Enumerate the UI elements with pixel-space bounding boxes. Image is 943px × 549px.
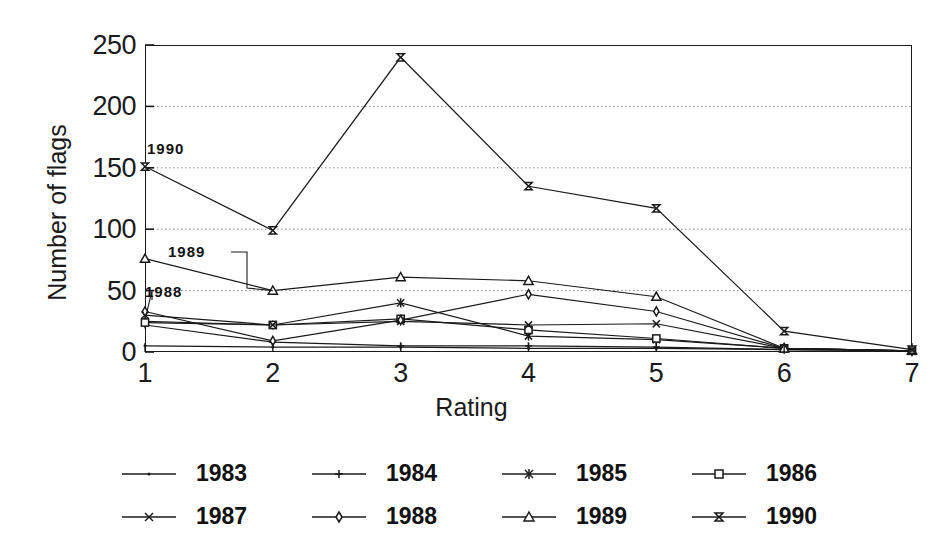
legend-item-1987[interactable]: 1987 — [118, 503, 308, 530]
marker-dot — [148, 472, 151, 475]
annotation-leader-lines — [147, 252, 273, 311]
line-chart: 050100150200250 1234567 Number of flags … — [0, 0, 943, 440]
marker-bowtie — [141, 163, 148, 170]
marker-bowtie — [397, 54, 404, 61]
legend-item-1984[interactable]: 1984 — [308, 460, 498, 487]
legend-label: 1987 — [196, 503, 247, 530]
chart-legend: 19831984198519861987198819891990 — [118, 452, 878, 538]
marker-diamond — [336, 512, 342, 522]
marker-square — [715, 470, 723, 478]
legend-label: 1985 — [576, 460, 627, 487]
y-tick-label: 100 — [92, 214, 136, 245]
marker-diamond — [654, 307, 659, 316]
marker-square — [653, 335, 660, 342]
x-tick-label: 5 — [649, 358, 664, 389]
legend-marker-diamond-icon — [308, 506, 370, 528]
legend-item-1985[interactable]: 1985 — [498, 460, 688, 487]
x-axis-title: Rating — [0, 393, 943, 422]
legend-label: 1988 — [386, 503, 437, 530]
x-tick-label: 3 — [393, 358, 408, 389]
legend-label: 1989 — [576, 503, 627, 530]
marker-square — [141, 319, 148, 326]
x-tick-label: 1 — [137, 358, 152, 389]
annotation-1989: 1989 — [168, 243, 205, 260]
y-tick-label: 200 — [92, 91, 136, 122]
y-tick-label: 250 — [92, 30, 136, 61]
annotation-1988: 1988 — [145, 283, 182, 300]
series-line — [145, 57, 912, 349]
legend-item-1983[interactable]: 1983 — [118, 460, 308, 487]
marker-triangle — [140, 254, 149, 262]
legend-item-1988[interactable]: 1988 — [308, 503, 498, 530]
legend-marker-bowtie-icon — [688, 506, 750, 528]
legend-marker-plus-icon — [308, 463, 370, 485]
legend-label: 1990 — [766, 503, 817, 530]
legend-item-1986[interactable]: 1986 — [688, 460, 878, 487]
marker-bowtie — [269, 227, 276, 234]
series-1990 — [141, 54, 915, 353]
annotation-1990: 1990 — [147, 140, 184, 157]
legend-label: 1984 — [386, 460, 437, 487]
x-tick-label: 4 — [521, 358, 536, 389]
legend-marker-cross-icon — [118, 506, 180, 528]
y-tick-label: 150 — [92, 152, 136, 183]
marker-plus — [335, 470, 343, 478]
chart-page: 050100150200250 1234567 Number of flags … — [0, 0, 943, 549]
legend-marker-triangle-icon — [498, 506, 560, 528]
y-tick-label: 50 — [107, 275, 136, 306]
gridlines — [145, 106, 912, 290]
marker-diamond — [142, 307, 147, 316]
y-axis-title: Number of flags — [43, 93, 72, 333]
y-tick-label: 0 — [121, 337, 136, 368]
axis-tick-marks — [145, 45, 912, 352]
legend-label: 1983 — [196, 460, 247, 487]
legend-marker-square-icon — [688, 463, 750, 485]
x-tick-label: 7 — [904, 358, 919, 389]
legend-row: 1983198419851986 — [118, 452, 878, 495]
legend-item-1989[interactable]: 1989 — [498, 503, 688, 530]
x-tick-label: 6 — [777, 358, 792, 389]
series-layer — [140, 54, 916, 356]
legend-item-1990[interactable]: 1990 — [688, 503, 878, 530]
legend-label: 1986 — [766, 460, 817, 487]
legend-row: 1987198819891990 — [118, 495, 878, 538]
legend-marker-asterisk-icon — [498, 463, 560, 485]
x-tick-label: 2 — [265, 358, 280, 389]
legend-marker-dot-icon — [118, 463, 180, 485]
